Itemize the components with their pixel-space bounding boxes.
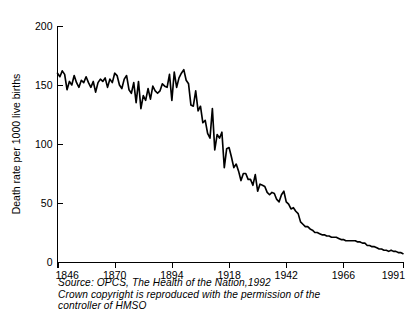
caption-line-copyright-1: Crown copyright is reproduced with the p… xyxy=(58,289,398,301)
y-tick-label-50: 50 xyxy=(41,197,53,209)
y-tick-marks xyxy=(58,27,64,263)
source-caption: Source: OPCS, The Health of the Nation,1… xyxy=(58,277,398,312)
caption-line-source: Source: OPCS, The Health of the Nation,1… xyxy=(58,277,398,289)
y-tick-label-200: 200 xyxy=(35,20,53,32)
y-tick-label-100: 100 xyxy=(35,138,53,150)
y-axis-title: Death rate per 1000 live births xyxy=(10,74,22,215)
y-tick-label-0: 0 xyxy=(47,256,53,268)
chart-axes xyxy=(58,26,404,263)
caption-line-copyright-2: controller of HMSO xyxy=(58,300,398,312)
y-tick-label-150: 150 xyxy=(35,79,53,91)
infant-mortality-figure: 050100150200 184618701894191819421966199… xyxy=(0,0,416,327)
page-text-fragment xyxy=(60,318,410,327)
infant-mortality-line xyxy=(58,70,404,254)
y-tick-labels: 050100150200 xyxy=(35,20,53,268)
